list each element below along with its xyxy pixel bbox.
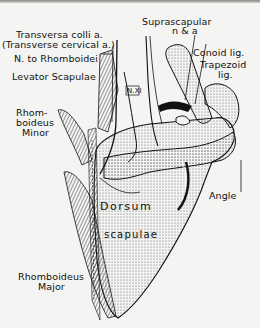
label-levator-scapulae: Levator Scapulae — [12, 72, 96, 82]
label-scapulae: scapulae — [104, 230, 158, 240]
label-n-xi: N.XI — [127, 86, 142, 96]
ligament-dark — [158, 102, 192, 113]
label-suprascapular-2: n & a — [172, 26, 198, 36]
label-conoid-lig: Conoid lig. — [193, 48, 244, 58]
label-dorsum: Dorsum — [100, 202, 152, 212]
label-angle: Angle — [209, 191, 237, 201]
label-transverse-cervical: (Transverse cervical a.) — [2, 40, 115, 50]
label-rhomboideus-minor-3: Minor — [22, 128, 49, 138]
label-n-to-rhomboidei: N. to Rhomboidei — [14, 54, 98, 64]
label-rhomboideus-major-2: Major — [38, 282, 65, 292]
label-trapezoid-lig-2: lig. — [218, 70, 233, 80]
levator-scapulae-muscle — [98, 50, 118, 132]
rhomboideus-minor-muscle — [58, 110, 92, 165]
